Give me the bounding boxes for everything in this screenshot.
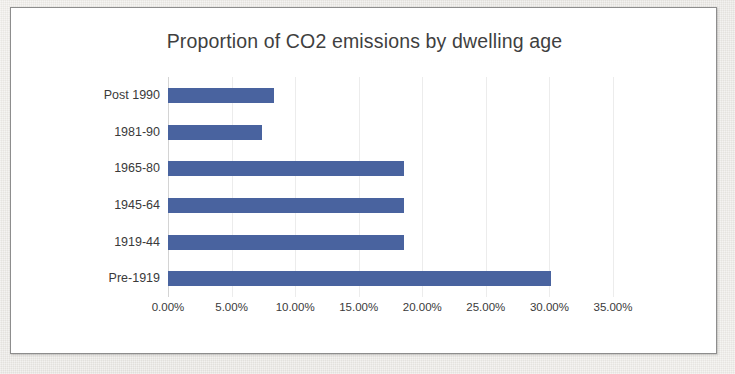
bar-row [168, 77, 613, 114]
x-axis-tick-labels: 0.00%5.00%10.00%15.00%20.00%25.00%30.00%… [168, 301, 613, 321]
gridline [613, 77, 614, 297]
bar[interactable] [168, 161, 404, 176]
y-axis-label: 1965-80 [21, 150, 160, 187]
bar[interactable] [168, 198, 404, 213]
bar-row [168, 260, 613, 297]
x-axis-tick-label: 15.00% [324, 301, 394, 313]
x-axis-tick-label: 0.00% [133, 301, 203, 313]
y-axis-category-labels: Post 19901981-901965-801945-641919-44Pre… [21, 77, 160, 297]
bar[interactable] [168, 88, 274, 103]
x-axis-tick-label: 25.00% [451, 301, 521, 313]
x-axis-tick-label: 20.00% [387, 301, 457, 313]
plot-wrapper: Post 19901981-901965-801945-641919-44Pre… [11, 8, 718, 355]
bar[interactable] [168, 125, 262, 140]
x-axis-tick-label: 30.00% [514, 301, 584, 313]
y-axis-label: 1945-64 [21, 187, 160, 224]
bar-row [168, 187, 613, 224]
x-axis-tick-label: 5.00% [197, 301, 267, 313]
y-axis-label: Pre-1919 [21, 260, 160, 297]
bar-series [168, 77, 613, 297]
chart-frame: Proportion of CO2 emissions by dwelling … [10, 7, 717, 354]
plot-area [168, 77, 613, 297]
y-axis-label: 1981-90 [21, 114, 160, 151]
bar-row [168, 150, 613, 187]
bar-row [168, 224, 613, 261]
bar-row [168, 114, 613, 151]
scanned-page: Proportion of CO2 emissions by dwelling … [0, 0, 735, 374]
x-axis-tick-label: 10.00% [260, 301, 330, 313]
x-axis-tick-label: 35.00% [578, 301, 648, 313]
bar[interactable] [168, 271, 551, 286]
y-axis-label: 1919-44 [21, 224, 160, 261]
y-axis-label: Post 1990 [21, 77, 160, 114]
bar[interactable] [168, 235, 404, 250]
